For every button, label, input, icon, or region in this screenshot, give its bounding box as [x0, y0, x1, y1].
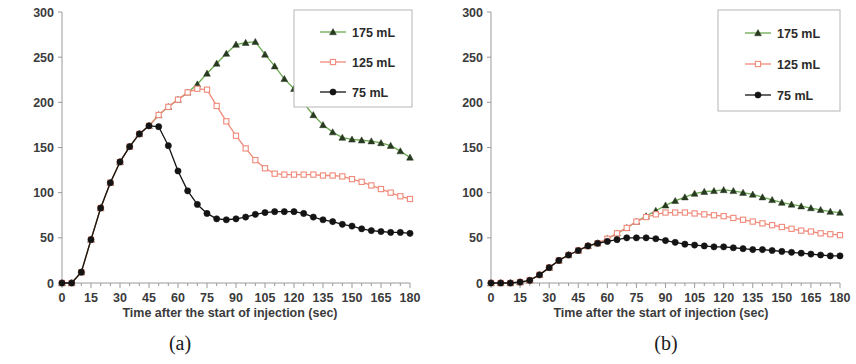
data-point-marker	[818, 231, 823, 236]
data-point-marker	[653, 236, 659, 242]
aortic-enhancement-chart: 0501001502002503000153045607590105120135…	[0, 0, 428, 330]
y-tick-label: 150	[33, 141, 54, 155]
data-point-marker	[827, 253, 833, 259]
data-point-marker	[730, 245, 736, 251]
legend-label: 125 mL	[352, 56, 395, 70]
data-point-marker	[721, 244, 727, 250]
x-tick-label: 30	[113, 291, 127, 305]
data-point-marker	[330, 218, 336, 224]
x-tick-label: 75	[629, 291, 643, 305]
data-point-marker	[252, 211, 258, 217]
data-point-marker	[272, 209, 278, 215]
data-point-marker	[330, 173, 335, 178]
legend-label: 75 mL	[777, 89, 813, 103]
data-point-marker	[673, 210, 678, 215]
data-point-marker	[397, 229, 403, 235]
data-point-marker	[175, 97, 180, 102]
data-point-marker	[769, 247, 775, 253]
data-point-marker	[740, 217, 745, 222]
data-point-marker	[185, 90, 190, 95]
data-point-marker	[755, 61, 760, 66]
data-point-marker	[755, 92, 761, 98]
x-axis-title-b: Time after the start of injection (sec)	[474, 306, 848, 320]
x-tick-label: 45	[571, 291, 585, 305]
data-point-marker	[214, 216, 220, 222]
data-point-marker	[388, 190, 393, 195]
data-point-marker	[175, 168, 181, 174]
figure-container: 0501001502002503000153045607590105120135…	[0, 0, 856, 364]
series-75-ml	[488, 235, 843, 286]
data-point-marker	[369, 183, 374, 188]
series-line	[491, 238, 840, 283]
x-tick-label: 180	[400, 291, 421, 305]
data-point-marker	[643, 235, 649, 241]
data-point-marker	[88, 237, 94, 243]
data-point-marker	[760, 221, 765, 226]
data-point-marker	[397, 148, 404, 154]
data-point-marker	[711, 244, 717, 250]
panel-caption-a: (a)	[0, 332, 394, 355]
y-axis-title-b: Hepatic Enhancement (HU)	[431, 0, 453, 46]
data-point-marker	[117, 159, 123, 165]
data-point-marker	[818, 252, 824, 258]
data-point-marker	[624, 225, 629, 230]
x-tick-label: 135	[742, 291, 763, 305]
data-point-marker	[233, 133, 238, 138]
data-point-marker	[711, 213, 716, 218]
series-line	[62, 126, 410, 283]
data-point-marker	[498, 280, 504, 286]
y-tick-label: 0	[47, 277, 54, 291]
x-axis-title-a: Time after the start of injection (sec)	[40, 306, 420, 320]
data-point-marker	[546, 265, 552, 271]
data-point-marker	[233, 216, 239, 222]
legend-label: 175 mL	[777, 27, 820, 41]
panel-caption-b: (b)	[452, 332, 856, 355]
x-tick-label: 45	[142, 291, 156, 305]
y-tick-label: 250	[33, 51, 54, 65]
data-point-marker	[691, 242, 697, 248]
data-point-marker	[575, 247, 581, 253]
x-tick-label: 60	[600, 291, 614, 305]
data-point-marker	[556, 257, 562, 263]
data-point-marker	[750, 219, 755, 224]
series-line	[62, 89, 410, 283]
data-point-marker	[146, 123, 152, 129]
x-tick-label: 60	[171, 291, 185, 305]
data-point-marker	[662, 237, 668, 243]
data-point-marker	[301, 172, 306, 177]
legend-label: 75 mL	[352, 86, 388, 100]
data-point-marker	[407, 196, 412, 201]
x-tick-label: 90	[659, 291, 673, 305]
data-point-marker	[166, 104, 171, 109]
y-tick-label: 250	[462, 51, 483, 65]
data-point-marker	[359, 179, 364, 184]
data-point-marker	[828, 232, 833, 237]
y-tick-label: 0	[476, 277, 483, 291]
data-point-marker	[604, 238, 610, 244]
data-point-marker	[721, 214, 726, 219]
data-point-marker	[799, 228, 804, 233]
x-tick-label: 150	[342, 291, 363, 305]
data-point-marker	[633, 235, 639, 241]
series-75-ml	[59, 123, 413, 286]
data-point-marker	[340, 174, 345, 179]
data-point-marker	[253, 158, 258, 163]
data-point-marker	[788, 249, 794, 255]
data-point-marker	[204, 87, 209, 92]
data-point-marker	[837, 253, 843, 259]
data-point-marker	[759, 246, 765, 252]
data-point-marker	[320, 173, 325, 178]
legend: 175 mL125 mL75 mL	[294, 10, 412, 107]
x-tick-label: 180	[830, 291, 851, 305]
y-axis-title-a: Aortic Enhancement (HU)	[1, 0, 23, 28]
y-tick-label: 100	[462, 186, 483, 200]
data-point-marker	[653, 212, 658, 217]
y-tick-label: 150	[462, 141, 483, 155]
data-point-marker	[224, 119, 229, 124]
data-point-marker	[127, 143, 133, 149]
data-point-marker	[702, 212, 707, 217]
data-point-marker	[301, 210, 307, 216]
data-point-marker	[339, 221, 345, 227]
data-point-marker	[349, 223, 355, 229]
data-point-marker	[310, 214, 316, 220]
